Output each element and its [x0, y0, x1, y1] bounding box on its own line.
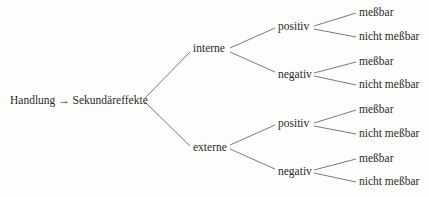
leaf-externe-negativ-nicht-messbar: nicht meßbar	[359, 175, 419, 187]
leaf-interne-negativ-nicht-messbar: nicht meßbar	[359, 78, 419, 90]
node-externe: externe	[193, 141, 227, 153]
leaf-interne-negativ-messbar: meßbar	[359, 55, 393, 67]
leaf-interne-positiv-nicht-messbar: nicht meßbar	[359, 30, 419, 42]
node-interne: interne	[193, 42, 225, 54]
node-interne-negativ: negativ	[278, 68, 312, 80]
node-externe-negativ: negativ	[278, 165, 312, 177]
leaf-externe-positiv-nicht-messbar: nicht meßbar	[359, 127, 419, 139]
root-node: Handlung → Sekundäreffekte	[10, 94, 148, 106]
tree-diagram: Handlung → Sekundäreffekte interne exter…	[0, 0, 429, 197]
node-interne-positiv: positiv	[278, 20, 309, 32]
leaf-externe-positiv-messbar: meßbar	[359, 103, 393, 115]
node-externe-positiv: positiv	[278, 117, 309, 129]
leaf-externe-negativ-messbar: meßbar	[359, 152, 393, 164]
leaf-interne-positiv-messbar: meßbar	[359, 6, 393, 18]
